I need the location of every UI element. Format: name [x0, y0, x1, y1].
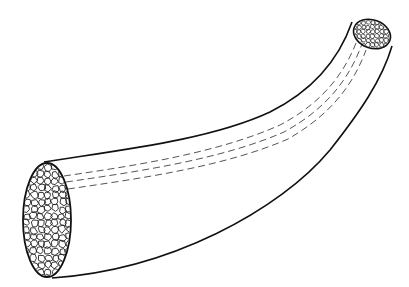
illustration — [0, 0, 409, 287]
tube-body — [44, 22, 392, 278]
small-cross-section — [347, 14, 398, 53]
large-cross-section — [15, 156, 74, 284]
internal-dashed-lines — [64, 38, 366, 189]
tapered-bundle-drawing — [0, 0, 409, 287]
